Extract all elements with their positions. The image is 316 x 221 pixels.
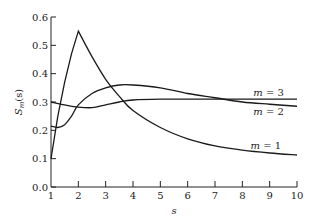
x-tick-label: 1 (48, 190, 54, 201)
x-tick-label: 5 (157, 190, 163, 201)
x-tick-label: 2 (75, 190, 81, 201)
y-tick-label: 0.4 (32, 68, 48, 79)
svg-text:Sm(s): Sm(s) (13, 89, 26, 116)
curve-labels: m = 3m = 2m = 1 (251, 87, 284, 150)
y-tick-label: 0.5 (32, 40, 48, 51)
y-tick-label: 0.3 (32, 97, 48, 108)
y-axis-label: Sm(s) (13, 89, 26, 116)
curve-label: m = 3 (253, 87, 284, 98)
x-tick-label: 3 (102, 190, 108, 201)
y-axis-label-arg: (s) (13, 89, 24, 102)
x-axis-label: s (171, 205, 176, 216)
x-tick-label: 4 (130, 190, 136, 201)
y-tick-label: 0.6 (32, 12, 48, 23)
curve-label: m = 1 (251, 140, 282, 151)
x-tick-label: 7 (212, 190, 218, 201)
x-tick-label: 8 (239, 190, 245, 201)
y-tick-label: 0.1 (32, 153, 48, 164)
curve-label: m = 2 (253, 106, 284, 117)
y-tick-label: 0.2 (32, 125, 48, 136)
x-tick-label: 6 (184, 190, 190, 201)
line-chart: 0.00.10.20.30.40.50.6 12345678910 m = 3m… (0, 0, 316, 221)
y-tick-label: 0.0 (32, 182, 48, 193)
x-tick-label: 9 (266, 190, 272, 201)
x-axis-ticks: 12345678910 (48, 181, 304, 201)
x-tick-label: 10 (291, 190, 304, 201)
